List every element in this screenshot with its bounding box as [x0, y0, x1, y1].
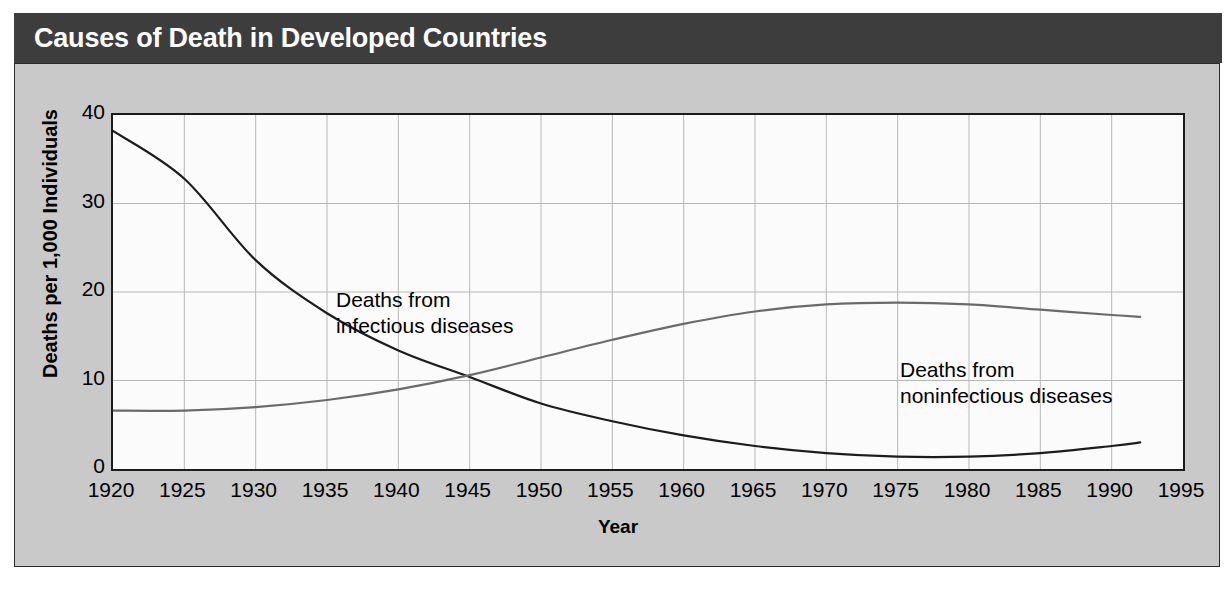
x-axis-ticks: 1920192519301935194019451950195519601965…	[111, 478, 1185, 508]
x-tick-label: 1920	[88, 478, 135, 502]
x-tick-label: 1985	[1015, 478, 1062, 502]
x-tick-label: 1965	[730, 478, 777, 502]
annotation-noninfectious: Deaths from noninfectious diseases	[900, 357, 1112, 410]
x-tick-label: 1970	[801, 478, 848, 502]
y-axis-ticks: 010203040	[35, 113, 105, 471]
chart-panel: Deaths per 1,000 Individuals 010203040 D…	[14, 63, 1220, 567]
x-tick-label: 1990	[1086, 478, 1133, 502]
x-tick-label: 1995	[1158, 478, 1205, 502]
x-tick-label: 1975	[872, 478, 919, 502]
page-title: Causes of Death in Developed Countries	[14, 23, 547, 54]
figure-root: Causes of Death in Developed Countries D…	[0, 0, 1231, 591]
x-tick-label: 1925	[159, 478, 206, 502]
y-tick-label: 20	[45, 277, 105, 301]
x-tick-label: 1935	[302, 478, 349, 502]
annotation-infectious: Deaths from infectious diseases	[336, 287, 513, 340]
y-tick-label: 40	[45, 100, 105, 124]
y-tick-label: 30	[45, 189, 105, 213]
x-tick-label: 1955	[587, 478, 634, 502]
x-tick-label: 1950	[516, 478, 563, 502]
gridlines	[113, 115, 1183, 469]
x-tick-label: 1980	[944, 478, 991, 502]
x-tick-label: 1945	[444, 478, 491, 502]
x-axis-title: Year	[15, 516, 1221, 538]
y-tick-label: 10	[45, 366, 105, 390]
plot-canvas	[113, 115, 1183, 469]
figure-title-bar: Causes of Death in Developed Countries	[14, 13, 1222, 63]
x-tick-label: 1930	[230, 478, 277, 502]
x-tick-label: 1940	[373, 478, 420, 502]
plot-area: Deaths from infectious diseases Deaths f…	[111, 113, 1185, 471]
x-tick-label: 1960	[658, 478, 705, 502]
y-tick-label: 0	[45, 454, 105, 478]
